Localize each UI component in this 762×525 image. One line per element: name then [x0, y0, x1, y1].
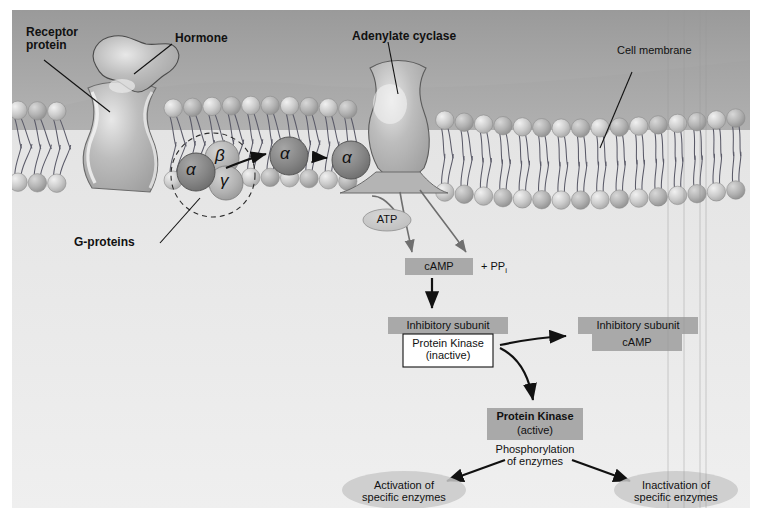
protein-kinase-inactive-label: Protein Kinase (inactive) — [403, 337, 493, 362]
phospholipid-head — [455, 185, 473, 203]
activation-line1: Activation of — [374, 479, 434, 491]
phospholipid-head — [203, 97, 221, 115]
phospholipid-head — [242, 96, 260, 114]
phosphorylation-line1: Phosphorylation — [496, 443, 575, 455]
phospholipid-head — [474, 115, 492, 133]
alpha-subunit-glyph: α — [186, 160, 196, 179]
phospholipid-head — [28, 102, 46, 120]
beta-subunit-glyph: β — [215, 146, 225, 165]
phospholipid-head — [319, 171, 337, 189]
phospholipid-head — [591, 119, 609, 137]
phospholipid-head — [455, 113, 473, 131]
atp-label: ATP — [363, 213, 411, 225]
phospholipid-head — [727, 109, 745, 127]
receptor-protein — [83, 82, 158, 192]
phospholipid-head — [513, 118, 531, 136]
kinase-inactive-name: Protein Kinase — [412, 337, 484, 349]
phospholipid-head — [474, 187, 492, 205]
phospholipid-head — [688, 113, 706, 131]
adenylate-cyclase-label: Adenylate cyclase — [352, 30, 456, 43]
phospholipid-head — [319, 99, 337, 117]
alpha-subunit-migrating-2-glyph: α — [342, 148, 352, 167]
phospholipid-head — [494, 189, 512, 207]
phospholipid-head — [261, 96, 279, 114]
ppi-text: + PP — [481, 260, 505, 272]
camp-bound-label: cAMP — [592, 336, 682, 348]
pyrophosphate-label: + PPi — [481, 260, 507, 276]
diagram-canvas: Receptor protein Hormone Adenylate cycla… — [0, 0, 762, 525]
phospholipid-head — [28, 174, 46, 192]
camp-label: cAMP — [405, 260, 473, 272]
phospholipid-head — [591, 191, 609, 209]
phospholipid-head — [649, 188, 667, 206]
phospholipid-head — [552, 119, 570, 137]
cell-membrane-label: Cell membrane — [617, 44, 692, 56]
pathway-illustration — [0, 0, 762, 525]
receptor-label-line2: protein — [26, 38, 67, 52]
phospholipid-head — [222, 97, 240, 115]
phospholipid-head — [727, 181, 745, 199]
alpha-migration-arrow-2 — [313, 157, 327, 158]
activation-outcome-label: Activation of specific enzymes — [344, 479, 464, 504]
phospholipid-head — [339, 100, 357, 118]
phospholipid-head — [9, 101, 27, 119]
inhibitory-subunit-label-right: Inhibitory subunit — [578, 319, 698, 331]
phospholipid-head — [300, 169, 318, 187]
receptor-label-line1: Receptor — [26, 25, 78, 39]
inhibitory-subunit-label-left: Inhibitory subunit — [388, 319, 508, 331]
phospholipid-head — [649, 116, 667, 134]
alpha-subunit-migrating-1-glyph: α — [280, 144, 290, 163]
phospholipid-head — [242, 168, 260, 186]
phosphorylation-line2: of enzymes — [507, 455, 563, 467]
alpha-subunit-circle — [177, 153, 215, 191]
phospholipid-head — [571, 191, 589, 209]
phospholipid-head — [630, 117, 648, 135]
phospholipid-head — [436, 111, 454, 129]
phospholipid-head — [533, 191, 551, 209]
receptor-protein-label: Receptor protein — [26, 26, 78, 53]
inactivation-line1: Inactivation of — [642, 479, 710, 491]
phospholipid-head — [494, 117, 512, 135]
kinase-inactive-state: (inactive) — [426, 349, 471, 361]
phospholipid-head — [533, 119, 551, 137]
phospholipid-head — [48, 102, 66, 120]
phospholipid-head — [552, 191, 570, 209]
phospholipid-head — [183, 98, 201, 116]
protein-kinase-active-name: Protein Kinase — [487, 410, 583, 422]
phospholipid-head — [610, 190, 628, 208]
phospholipid-head — [48, 174, 66, 192]
inactivation-line2: specific enzymes — [634, 491, 718, 503]
phospholipid-head — [9, 173, 27, 191]
phospholipid-head — [630, 189, 648, 207]
inactivation-outcome-label: Inactivation of specific enzymes — [616, 479, 736, 504]
phosphorylation-label: Phosphorylation of enzymes — [482, 443, 588, 468]
gamma-subunit-glyph: γ — [220, 171, 229, 190]
phospholipid-head — [571, 119, 589, 137]
g-proteins-label: G-proteins — [74, 236, 135, 249]
phospholipid-head — [707, 183, 725, 201]
phospholipid-head — [164, 99, 182, 117]
phospholipid-head — [688, 185, 706, 203]
ppi-subscript: i — [505, 266, 507, 275]
phospholipid-head — [300, 97, 318, 115]
phospholipid-head — [707, 111, 725, 129]
protein-kinase-active-state: (active) — [487, 424, 583, 436]
phospholipid-head — [280, 97, 298, 115]
activation-line2: specific enzymes — [362, 491, 446, 503]
hormone-label: Hormone — [175, 32, 228, 45]
phospholipid-head — [513, 190, 531, 208]
phospholipid-head — [610, 118, 628, 136]
